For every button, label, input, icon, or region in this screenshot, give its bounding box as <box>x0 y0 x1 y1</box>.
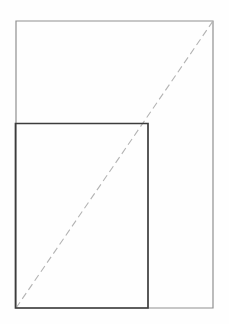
geometry-figure <box>0 0 229 324</box>
outer-rectangle <box>16 21 213 308</box>
diagram-canvas <box>0 0 229 324</box>
shared-diagonal-dashed-line <box>16 21 213 308</box>
